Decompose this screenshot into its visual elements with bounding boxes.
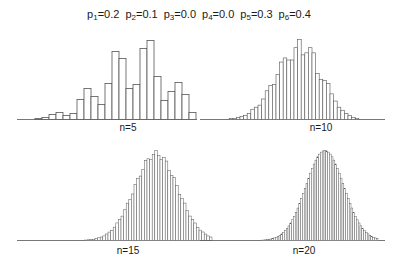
histogram-bar <box>240 116 244 119</box>
histogram-bar <box>181 199 184 241</box>
histogram-n5 <box>35 41 196 120</box>
histogram-bar <box>265 91 269 120</box>
histogram-bar <box>152 154 155 240</box>
histogram-bar <box>189 216 192 240</box>
histogram-bar <box>189 113 196 120</box>
histogram-bar <box>199 230 202 240</box>
histogram-bar <box>229 118 233 119</box>
histogram-bar <box>329 154 331 240</box>
histogram-bar <box>111 230 114 240</box>
histogram-bar <box>355 118 359 119</box>
histogram-bar <box>147 41 154 120</box>
histogram-bar <box>126 203 129 240</box>
histogram-bar <box>35 119 42 120</box>
histogram-bar <box>319 154 321 240</box>
histogram-bar <box>274 238 276 241</box>
histogram-bar <box>348 115 352 119</box>
histogram-bar <box>290 223 292 241</box>
histogram-bar <box>105 84 112 120</box>
histogram-bar <box>299 203 301 240</box>
histogram-bar <box>281 234 283 241</box>
histogram-bar <box>98 105 105 120</box>
histogram-bar <box>182 95 189 120</box>
histogram-bar <box>356 220 358 241</box>
histogram-bar <box>301 55 305 120</box>
histogram-bar <box>207 236 210 241</box>
histogram-bar <box>317 157 319 241</box>
histogram-bar <box>103 236 106 241</box>
histogram-bar <box>139 176 142 240</box>
histogram-bar <box>284 230 286 240</box>
histogram-bar <box>262 99 266 120</box>
histogram-bar <box>170 175 173 240</box>
histogram-bar <box>276 74 280 119</box>
histogram-bar <box>178 194 181 240</box>
histogram-bar <box>196 227 199 240</box>
histogram-bar <box>310 173 312 240</box>
histogram-bar <box>365 232 367 240</box>
histogram-bar <box>204 234 207 240</box>
histogram-bar <box>326 151 328 241</box>
histogram-bar <box>129 199 132 240</box>
histogram-bar <box>320 152 322 240</box>
histogram-bar <box>175 83 182 120</box>
histogram-bar <box>337 107 341 119</box>
histogram-bar <box>70 114 77 120</box>
histogram-bar <box>374 238 376 241</box>
histogram-bar <box>340 178 342 240</box>
histogram-bar <box>269 86 273 120</box>
histogram-bar <box>283 232 285 240</box>
histogram-bar <box>118 220 121 241</box>
histogram-bar <box>344 189 346 241</box>
histogram-bar <box>49 115 56 120</box>
histogram-bar <box>277 236 279 240</box>
histogram-bar <box>194 223 197 240</box>
histogram-bar <box>364 230 366 240</box>
histogram-bar <box>355 216 357 240</box>
histogram-bar <box>319 80 323 120</box>
histogram-bar <box>126 89 133 120</box>
histogram-bar <box>360 226 362 241</box>
histogram-bar <box>308 48 312 120</box>
histogram-bar <box>137 178 140 240</box>
histogram-bar <box>209 237 212 240</box>
histogram-bar <box>323 81 327 120</box>
histogram-n20 <box>261 151 378 241</box>
histogram-bar <box>270 239 272 241</box>
histogram-bar <box>168 170 171 240</box>
histogram-bar <box>176 185 179 240</box>
histogram-bar <box>157 156 160 241</box>
histogram-bar <box>116 223 119 241</box>
histogram-bar <box>328 152 330 240</box>
histogram-bar <box>305 53 309 120</box>
histogram-bar <box>154 77 161 120</box>
histogram-bar <box>140 49 147 120</box>
histogram-bar <box>186 210 189 240</box>
histogram-bar <box>297 208 299 240</box>
histogram-bar <box>349 203 351 240</box>
histogram-bar <box>124 210 127 241</box>
histogram-bar <box>275 237 277 240</box>
histogram-bar <box>324 151 326 241</box>
histogram-bar <box>295 212 297 240</box>
histogram-bar <box>202 232 205 241</box>
histogram-bar <box>236 117 240 119</box>
label-n5: n=5 <box>98 122 158 133</box>
histogram-bar <box>347 199 349 241</box>
histogram-bar <box>251 109 255 119</box>
histogram-bar <box>121 216 124 240</box>
histogram-bar <box>373 237 375 240</box>
histogram-bar <box>150 160 153 241</box>
histogram-bar <box>119 59 126 120</box>
histogram-bar <box>315 160 317 240</box>
histogram-bar <box>294 48 298 120</box>
histogram-bar <box>155 151 158 241</box>
histogram-bar <box>173 178 176 241</box>
histogram-bar <box>254 107 258 119</box>
label-n20: n=20 <box>274 245 334 256</box>
histogram-bar <box>90 240 93 241</box>
histogram-bar <box>258 105 262 119</box>
histogram-n10 <box>229 40 359 120</box>
histogram-bar <box>268 239 270 240</box>
histogram-bar <box>108 232 111 240</box>
